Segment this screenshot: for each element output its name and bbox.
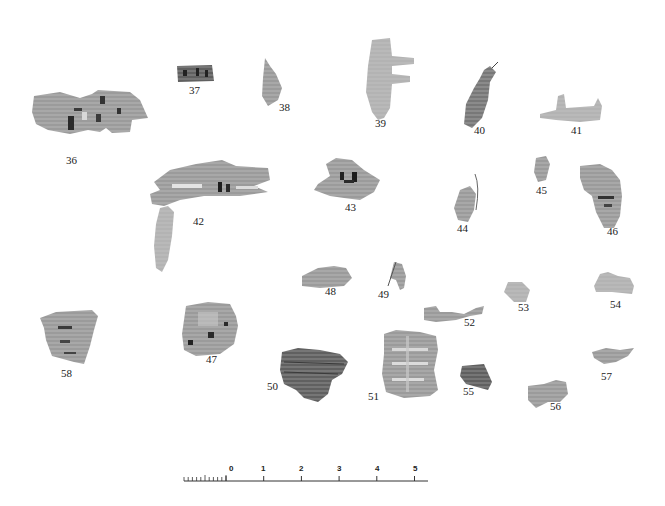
fragment-label-48: 48	[325, 286, 336, 297]
fragment-43	[314, 158, 380, 200]
scale-bar	[184, 475, 428, 481]
scale-label-5: 5	[413, 465, 417, 473]
fragment-label-40: 40	[474, 125, 485, 136]
fragment-46	[580, 164, 622, 228]
fragment-label-43: 43	[345, 202, 356, 213]
fragment-58	[40, 310, 98, 364]
fragment-56	[528, 380, 568, 408]
fragment-50	[280, 348, 348, 402]
fragment-53	[504, 282, 530, 302]
fragment-label-56: 56	[550, 401, 561, 412]
fragment-label-58: 58	[61, 368, 72, 379]
fragment-label-57: 57	[601, 371, 612, 382]
fragment-label-37: 37	[189, 85, 200, 96]
fragment-54	[594, 272, 634, 294]
fragment-label-51: 51	[368, 391, 379, 402]
fragment-label-53: 53	[518, 302, 529, 313]
fragment-49	[388, 262, 406, 290]
fragment-52	[424, 306, 484, 322]
scale-label-3: 3	[337, 465, 341, 473]
fragment-label-50: 50	[267, 381, 278, 392]
fragment-39	[366, 38, 414, 120]
fragment-label-52: 52	[464, 317, 475, 328]
fragment-38	[262, 58, 282, 106]
fragment-label-54: 54	[610, 299, 621, 310]
fragment-36	[32, 90, 148, 134]
fragment-label-47: 47	[206, 354, 217, 365]
fragment-44	[454, 174, 478, 222]
scale-label-4: 4	[375, 465, 379, 473]
fragment-47	[182, 302, 238, 356]
fragment-label-46: 46	[607, 226, 618, 237]
fragment-label-38: 38	[279, 102, 290, 113]
fragment-41	[540, 94, 602, 122]
fragment-45	[534, 156, 550, 182]
scale-label-2: 2	[299, 465, 303, 473]
fragments-layer	[0, 0, 665, 506]
fragment-51	[382, 330, 438, 398]
fragment-label-39: 39	[375, 118, 386, 129]
fragment-37	[177, 65, 214, 82]
fragment-label-55: 55	[463, 386, 474, 397]
fragment-label-45: 45	[536, 185, 547, 196]
fragment-label-42: 42	[193, 216, 204, 227]
fragment-57	[592, 348, 634, 364]
papyrus-plate: 3637383940414243444546474849505152535455…	[0, 0, 665, 506]
fragment-label-49: 49	[378, 289, 389, 300]
scale-label-0: 0	[229, 465, 233, 473]
fragment-40	[464, 62, 498, 128]
fragment-42	[150, 160, 270, 272]
fragment-label-44: 44	[457, 223, 468, 234]
fragment-label-41: 41	[571, 125, 582, 136]
fragment-label-36: 36	[66, 155, 77, 166]
scale-label-1: 1	[261, 465, 265, 473]
